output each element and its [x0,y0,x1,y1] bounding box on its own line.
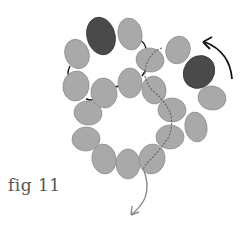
bead-light [183,110,210,143]
bead-diagram [0,0,243,244]
bead-light [118,68,142,98]
bead-light [116,149,140,179]
bead-light [115,16,144,52]
bead-ring [61,14,228,179]
figure-label: fig 11 [8,175,61,195]
bead-light [156,125,184,149]
bead-light [134,46,166,74]
bead-light [158,98,186,122]
bead-light [61,69,92,103]
